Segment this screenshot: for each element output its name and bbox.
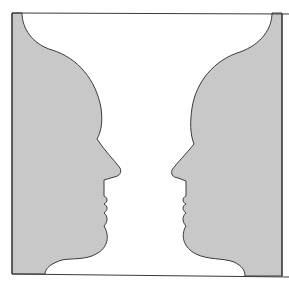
rubin-vase-figure [0, 0, 289, 286]
